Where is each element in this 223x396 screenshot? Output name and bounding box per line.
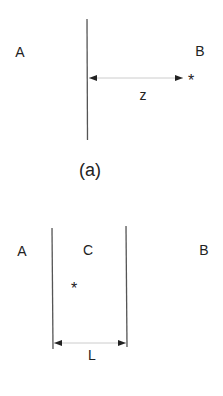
label-width-l: L [88,348,96,362]
label-region-a-b: A [17,244,26,258]
source-marker-a: * [188,73,194,89]
label-region-b: B [195,44,204,58]
label-region-b-b: B [199,243,208,257]
caption-a: (a) [79,161,101,179]
source-marker-b: * [71,281,77,297]
interface-line-a [87,19,88,140]
label-region-a: A [15,45,24,59]
interface-line-right [126,226,127,347]
label-region-c: C [83,243,93,257]
label-distance-z: z [140,88,147,102]
interface-line-left [52,228,53,349]
diagram-canvas [0,0,223,396]
